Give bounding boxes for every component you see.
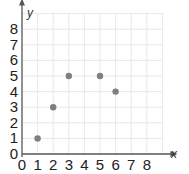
x-tick-label: 0 (18, 156, 26, 173)
y-axis-label: y (26, 6, 34, 20)
data-point (97, 73, 103, 79)
y-tick-label: 2 (10, 114, 18, 131)
data-point (66, 73, 72, 79)
y-tick-label: 1 (10, 129, 18, 146)
y-tick-label: 6 (10, 51, 18, 68)
y-axis-arrow-icon (19, 0, 25, 6)
x-tick-label: 3 (65, 156, 73, 173)
x-axis-label: x (170, 147, 178, 161)
x-tick-label: 4 (80, 156, 88, 173)
scatter-plot: 012345678012345678 x y (0, 0, 189, 174)
y-tick-label: 8 (10, 20, 18, 37)
x-tick-label: 7 (127, 156, 135, 173)
tick-labels: 012345678012345678 (10, 20, 151, 173)
x-tick-label: 6 (111, 156, 119, 173)
y-tick-label: 4 (10, 83, 18, 100)
x-tick-label: 1 (33, 156, 41, 173)
data-point (112, 88, 118, 94)
data-point (34, 135, 40, 141)
x-tick-label: 8 (143, 156, 151, 173)
y-tick-label: 7 (10, 36, 18, 53)
y-tick-label: 0 (10, 145, 18, 162)
x-tick-label: 2 (49, 156, 57, 173)
data-point (50, 104, 56, 110)
y-tick-label: 5 (10, 67, 18, 84)
y-tick-label: 3 (10, 98, 18, 115)
grid-lines (22, 14, 162, 154)
x-tick-label: 5 (96, 156, 104, 173)
